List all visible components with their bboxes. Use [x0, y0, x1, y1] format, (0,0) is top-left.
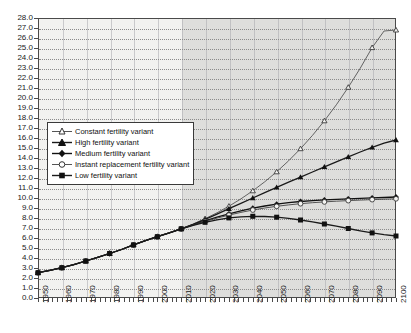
x-axis-tick	[153, 298, 154, 302]
x-axis-tick	[167, 298, 168, 302]
x-axis-tick	[291, 298, 292, 302]
x-axis-tick	[52, 298, 53, 302]
x-axis-tick	[181, 298, 182, 302]
x-axis-tick	[215, 298, 216, 302]
x-axis-tick	[129, 298, 130, 302]
x-axis-tick	[67, 298, 68, 302]
x-axis-tick	[305, 298, 306, 302]
x-axis-tick	[124, 298, 125, 302]
x-axis-tick	[301, 298, 302, 302]
x-axis-tick	[110, 298, 111, 302]
x-axis-tick	[143, 298, 144, 302]
x-axis-tick	[286, 298, 287, 302]
x-axis-tick	[382, 298, 383, 302]
x-axis-tick-label: 2100	[400, 285, 408, 303]
x-axis-tick	[114, 298, 115, 302]
x-axis-tick	[262, 298, 263, 302]
x-axis-tick	[315, 298, 316, 302]
filled-diamond-marker-icon	[51, 148, 73, 159]
x-axis-tick	[277, 298, 278, 302]
x-axis-tick	[186, 298, 187, 302]
x-axis-tick	[229, 298, 230, 302]
x-axis-tick	[234, 298, 235, 302]
x-axis-tick	[86, 298, 87, 302]
legend-label: Instant replacement fertility variant	[73, 159, 189, 170]
filled-triangle-marker-icon	[51, 137, 73, 148]
x-axis-tick	[267, 298, 268, 302]
x-axis-tick	[348, 298, 349, 302]
x-axis-tick	[43, 298, 44, 302]
x-axis-tick	[324, 298, 325, 302]
x-axis-tick	[219, 298, 220, 302]
x-axis-tick	[248, 298, 249, 302]
population-projection-chart: 0.01.02.03.04.05.06.07.08.09.010.011.012…	[0, 0, 411, 333]
x-axis-tick	[224, 298, 225, 302]
legend-item-instant-replacement-fertility: Instant replacement fertility variant	[51, 159, 189, 170]
x-axis-tick	[272, 298, 273, 302]
legend-label: High fertility variant	[73, 137, 139, 148]
x-axis-tick	[296, 298, 297, 302]
legend-item-low-fertility: Low fertility variant	[51, 170, 189, 181]
x-axis-tick	[310, 298, 311, 302]
x-axis-tick	[238, 298, 239, 302]
legend-item-high-fertility: High fertility variant	[51, 137, 189, 148]
x-axis-tick	[339, 298, 340, 302]
x-axis-tick	[320, 298, 321, 302]
legend-item-constant-fertility: Constant fertility variant	[51, 126, 189, 137]
x-axis-tick	[391, 298, 392, 302]
x-axis-tick	[205, 298, 206, 302]
x-axis-tick	[363, 298, 364, 302]
x-axis-tick	[329, 298, 330, 302]
x-axis-tick	[100, 298, 101, 302]
x-axis-tick	[138, 298, 139, 302]
x-axis-tick	[396, 298, 397, 302]
x-axis-tick	[172, 298, 173, 302]
x-axis-tick	[71, 298, 72, 302]
x-axis-tick	[48, 298, 49, 302]
x-axis-tick	[334, 298, 335, 302]
x-axis-tick	[62, 298, 63, 302]
x-axis-tick	[91, 298, 92, 302]
x-axis-tick	[343, 298, 344, 302]
chart-legend: Constant fertility variant High fertilit…	[47, 122, 194, 185]
x-axis-tick	[377, 298, 378, 302]
x-axis-tick	[243, 298, 244, 302]
legend-label: Constant fertility variant	[73, 126, 153, 137]
x-axis-tick	[57, 298, 58, 302]
filled-square-marker-icon	[51, 170, 73, 181]
x-axis-tick	[119, 298, 120, 302]
x-axis-tick	[367, 298, 368, 302]
x-axis-tick	[253, 298, 254, 302]
x-axis-tick	[358, 298, 359, 302]
x-axis-tick	[76, 298, 77, 302]
x-axis-tick	[162, 298, 163, 302]
x-axis-tick	[191, 298, 192, 302]
x-axis-tick	[353, 298, 354, 302]
open-circle-marker-icon	[51, 159, 73, 170]
x-axis-tick	[38, 298, 39, 302]
x-axis-tick	[210, 298, 211, 302]
open-triangle-marker-icon	[51, 126, 73, 137]
x-axis-tick	[157, 298, 158, 302]
legend-label: Low fertility variant	[73, 170, 137, 181]
x-axis-tick	[258, 298, 259, 302]
x-axis-tick	[200, 298, 201, 302]
x-axis-tick	[386, 298, 387, 302]
x-axis-tick	[81, 298, 82, 302]
x-axis-tick	[105, 298, 106, 302]
x-axis-tick	[133, 298, 134, 302]
x-axis-tick	[148, 298, 149, 302]
x-axis-tick	[372, 298, 373, 302]
x-axis-tick	[95, 298, 96, 302]
x-axis-tick	[176, 298, 177, 302]
legend-label: Medium fertility variant	[73, 148, 150, 159]
legend-item-medium-fertility: Medium fertility variant	[51, 148, 189, 159]
x-axis-tick	[196, 298, 197, 302]
x-axis-tick	[281, 298, 282, 302]
